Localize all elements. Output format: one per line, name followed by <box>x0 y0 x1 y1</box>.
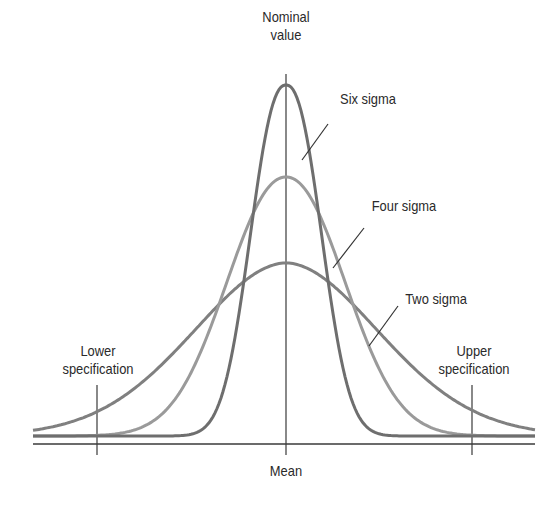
two-sigma-label: Two sigma <box>393 290 479 308</box>
lower-line2: specification <box>48 360 148 378</box>
normal-distribution-diagram <box>0 0 553 510</box>
lower-line1: Lower <box>48 342 148 360</box>
upper-line1: Upper <box>424 342 524 360</box>
upper-line2: specification <box>424 360 524 378</box>
six-sigma-curve <box>33 85 535 436</box>
lower-specification-label: Lower specification <box>48 342 148 378</box>
four-sigma-label: Four sigma <box>361 197 447 215</box>
nominal-value-label: Nominal value <box>252 8 321 44</box>
mean-label: Mean <box>260 462 312 480</box>
four-sigma-leader <box>333 228 364 268</box>
six-sigma-label: Six sigma <box>325 90 411 108</box>
nominal-line2: value <box>252 26 321 44</box>
nominal-line1: Nominal <box>252 8 321 26</box>
upper-specification-label: Upper specification <box>424 342 524 378</box>
